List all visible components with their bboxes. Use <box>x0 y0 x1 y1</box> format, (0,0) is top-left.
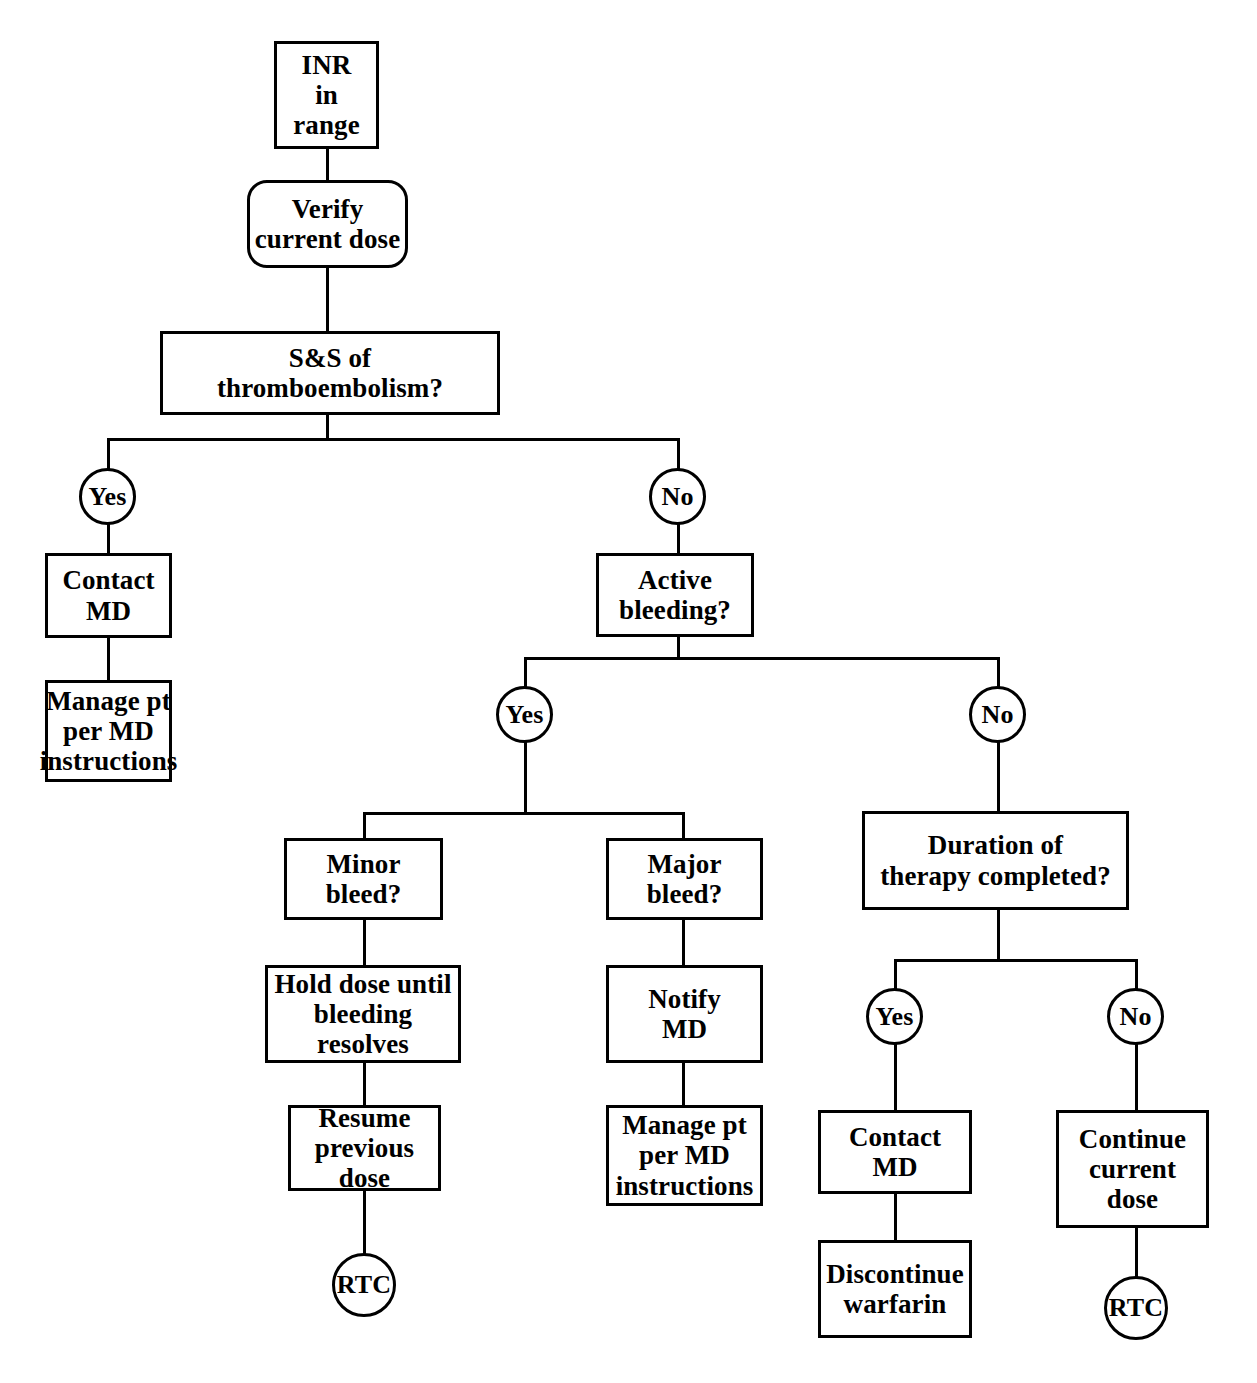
node-bleeding-yes[interactable]: Yes <box>496 686 553 743</box>
edge-minorbleed-to-holddose <box>363 918 366 968</box>
node-label: Duration of therapy completed? <box>876 830 1115 890</box>
edge-ss-split <box>107 438 680 441</box>
node-manage-pt-left[interactable]: Manage pt per MD instructions <box>45 680 172 782</box>
edge-holddose-to-resume <box>363 1061 366 1107</box>
edge-to-duration-no <box>1135 959 1138 991</box>
edge-notifymd-to-managept <box>682 1061 685 1107</box>
edge-bleeding-children-split <box>363 812 685 815</box>
edge-majorbleed-to-notifymd <box>682 918 685 968</box>
edge-durationyes-to-contactmd <box>894 1043 897 1111</box>
node-label: Verify current dose <box>251 194 404 254</box>
node-ss-yes[interactable]: Yes <box>79 468 136 525</box>
edge-inr-to-verify <box>326 148 329 182</box>
node-label: RTC <box>333 1270 395 1299</box>
edge-verify-to-ss <box>326 266 329 333</box>
node-major-bleed[interactable]: Major bleed? <box>606 838 763 920</box>
edge-yes-to-contactmd <box>107 523 110 555</box>
edge-to-minorbleed <box>363 812 366 840</box>
edge-bleedingyes-stub <box>524 741 527 815</box>
flowchart-canvas: INR in range Verify current dose S&S of … <box>0 0 1257 1383</box>
node-label: S&S of thromboembolism? <box>213 343 447 403</box>
edge-ss-stub <box>326 413 329 441</box>
edge-durationno-to-continue <box>1135 1043 1138 1111</box>
node-label: Major bleed? <box>643 849 727 909</box>
node-ss-thromboembolism[interactable]: S&S of thromboembolism? <box>160 331 500 415</box>
node-continue-current-dose[interactable]: Continue current dose <box>1056 1110 1209 1228</box>
node-label: Active bleeding? <box>615 565 735 625</box>
node-notify-md[interactable]: Notify MD <box>606 965 763 1063</box>
edge-contactmd-to-managept <box>107 636 110 682</box>
node-label: Discontinue warfarin <box>822 1259 968 1319</box>
edge-to-bleeding-yes <box>524 657 527 689</box>
edge-resume-to-rtc <box>363 1189 366 1254</box>
node-label: Yes <box>85 482 131 511</box>
edge-contactmd-to-discontinue <box>894 1192 897 1241</box>
node-discontinue-warfarin[interactable]: Discontinue warfarin <box>818 1240 972 1338</box>
edge-ss-to-yes <box>107 438 110 471</box>
edge-to-bleeding-no <box>997 657 1000 689</box>
node-duration-yes[interactable]: Yes <box>866 988 923 1045</box>
node-label: Hold dose until bleeding resolves <box>270 969 455 1060</box>
edge-to-duration-yes <box>894 959 897 991</box>
node-label: No <box>658 482 698 511</box>
edge-ss-to-no <box>677 438 680 471</box>
node-manage-pt-major[interactable]: Manage pt per MD instructions <box>606 1105 763 1206</box>
node-label: Manage pt per MD instructions <box>612 1110 758 1201</box>
edge-duration-stub <box>997 908 1000 962</box>
node-active-bleeding[interactable]: Active bleeding? <box>596 553 754 637</box>
node-label: RTC <box>1105 1293 1167 1322</box>
node-contact-md-duration[interactable]: Contact MD <box>818 1110 972 1194</box>
edge-no-to-activebleeding <box>677 523 680 555</box>
edge-to-majorbleed <box>682 812 685 840</box>
edge-activebleeding-split <box>524 657 1000 660</box>
node-verify-current-dose[interactable]: Verify current dose <box>247 180 408 268</box>
node-label: Resume previous dose <box>311 1103 418 1194</box>
node-minor-bleed[interactable]: Minor bleed? <box>284 838 443 920</box>
node-rtc-minor[interactable]: RTC <box>332 1253 396 1317</box>
node-label: Notify MD <box>644 984 725 1044</box>
node-label: No <box>978 700 1018 729</box>
edge-bleedingno-to-duration <box>997 741 1000 814</box>
node-inr-in-range[interactable]: INR in range <box>274 41 379 149</box>
node-contact-md-left[interactable]: Contact MD <box>45 553 172 638</box>
node-duration-of-therapy[interactable]: Duration of therapy completed? <box>862 811 1129 910</box>
node-label: No <box>1116 1002 1156 1031</box>
node-label: Continue current dose <box>1075 1124 1190 1215</box>
node-ss-no[interactable]: No <box>649 468 706 525</box>
node-label: Yes <box>502 700 548 729</box>
node-rtc-duration[interactable]: RTC <box>1104 1276 1168 1340</box>
edge-duration-split <box>894 959 1138 962</box>
edge-continue-to-rtc <box>1135 1226 1138 1280</box>
node-label: Manage pt per MD instructions <box>36 686 182 777</box>
node-label: Contact MD <box>845 1122 945 1182</box>
node-label: INR in range <box>289 50 363 141</box>
node-label: Contact MD <box>58 565 158 625</box>
node-label: Yes <box>872 1002 918 1031</box>
node-resume-previous-dose[interactable]: Resume previous dose <box>288 1105 441 1191</box>
node-label: Minor bleed? <box>322 849 406 909</box>
node-duration-no[interactable]: No <box>1107 988 1164 1045</box>
node-hold-dose[interactable]: Hold dose until bleeding resolves <box>265 965 461 1063</box>
node-bleeding-no[interactable]: No <box>969 686 1026 743</box>
